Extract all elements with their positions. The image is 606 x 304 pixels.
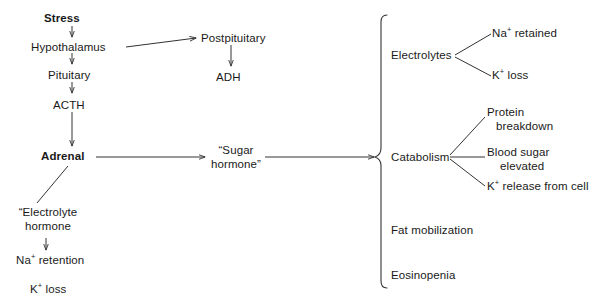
blood-sugar-line2: elevated: [487, 159, 544, 173]
node-adrenal: Adrenal: [41, 150, 85, 163]
effects-brace: [375, 15, 387, 288]
k-loss-right-symbol: K: [492, 69, 500, 81]
node-protein-breakdown: Protein breakdown: [487, 105, 597, 133]
na-retention-text: retention: [35, 254, 84, 266]
electrolyte-hormone-line2: hormone: [25, 220, 71, 232]
node-k-release-from-cell: K+ release from cell: [487, 180, 589, 193]
na-retained-text: retained: [511, 27, 557, 39]
node-eosinopenia: Eosinopenia: [391, 269, 455, 282]
k-loss-left-symbol: K: [30, 283, 38, 295]
node-na-retention: Na+ retention: [16, 254, 84, 267]
sugar-hormone-line2: hormone”: [211, 158, 261, 170]
k-loss-right-text: loss: [504, 69, 528, 81]
node-k-loss-left: K+ loss: [30, 283, 66, 296]
branch-catabolism-to-k-release: [450, 159, 485, 186]
na-retained-symbol: Na: [492, 27, 507, 39]
node-blood-sugar-elevated: Blood sugar elevated: [487, 145, 597, 173]
branch-electrolytes-to-k-loss: [455, 57, 491, 76]
node-electrolyte-hormone: “Electrolyte hormone: [8, 205, 88, 233]
node-catabolism: Catabolism: [391, 151, 450, 164]
electrolyte-hormone-line1: “Electrolyte: [19, 206, 78, 218]
node-postpituitary: Postpituitary: [201, 32, 266, 45]
k-loss-left-text: loss: [42, 283, 66, 295]
arrow-hypothalamus-to-postpituitary: [126, 38, 196, 47]
protein-breakdown-line1: Protein: [487, 106, 524, 118]
node-acth: ACTH: [53, 99, 85, 112]
node-fat-mobilization: Fat mobilization: [391, 224, 473, 237]
blood-sugar-line1: Blood sugar: [487, 146, 549, 158]
line-adrenal-to-electrolyte-hormone: [37, 166, 68, 203]
node-hypothalamus: Hypothalamus: [31, 41, 106, 54]
node-electrolytes: Electrolytes: [391, 49, 452, 62]
protein-breakdown-line2: breakdown: [487, 119, 553, 133]
na-retention-symbol: Na: [16, 254, 31, 266]
branch-catabolism-to-protein-breakdown: [450, 117, 485, 155]
node-pituitary: Pituitary: [48, 69, 90, 82]
node-k-loss-right: K+ loss: [492, 69, 528, 82]
sugar-hormone-line1: “Sugar: [218, 144, 253, 156]
node-sugar-hormone: “Sugar hormone”: [207, 143, 265, 171]
k-release-symbol: K: [487, 180, 495, 192]
node-na-retained: Na+ retained: [492, 27, 557, 40]
k-release-text: release from cell: [499, 180, 588, 192]
node-stress: Stress: [44, 12, 80, 25]
node-adh: ADH: [216, 71, 241, 84]
branch-electrolytes-to-na-retained: [455, 34, 491, 55]
diagram-canvas: Stress Hypothalamus Pituitary ACTH Adren…: [0, 0, 606, 304]
